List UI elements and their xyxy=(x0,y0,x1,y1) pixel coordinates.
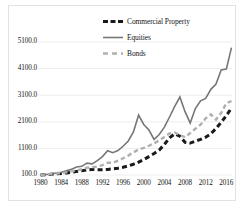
series-line-equities xyxy=(41,48,232,175)
y-tick-label: 3100.0 xyxy=(2,92,37,99)
legend-label-equities: Equities xyxy=(127,34,151,41)
legend-label-commercial-property: Commercial Property xyxy=(127,18,190,25)
legend-swatches xyxy=(103,22,123,54)
y-tick-label: 1100.0 xyxy=(2,145,37,152)
x-tick-label: 2016 xyxy=(211,180,241,187)
y-tick-label: 4100.0 xyxy=(2,65,37,72)
y-tick-label: 5100.0 xyxy=(2,38,37,45)
y-tick-label: 100.0 xyxy=(2,171,37,178)
gridlines xyxy=(38,42,232,175)
series-line-commercial-property xyxy=(41,108,232,175)
chart-container: 100.01100.02100.03100.04100.05100.0 1980… xyxy=(0,0,244,209)
series-line-bonds xyxy=(41,101,232,175)
y-tick-label: 2100.0 xyxy=(2,118,37,125)
data-series-group xyxy=(41,48,232,175)
legend-label-bonds: Bonds xyxy=(127,50,146,57)
